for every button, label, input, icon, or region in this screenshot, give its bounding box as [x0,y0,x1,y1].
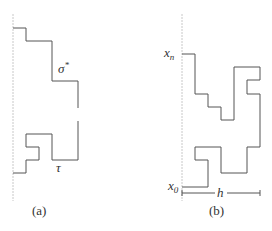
caption-a: (a) [32,203,46,218]
tau-label: τ [56,160,62,175]
start-point-label: x0 [167,178,179,195]
caption-b: (b) [209,203,224,218]
lattice-path [182,54,260,187]
path-tau [13,121,78,173]
panel-b: xn x0 h (b) [163,14,260,218]
width-label: h [217,185,224,200]
lattice-path-figure: σ* τ (a) xn x0 h (b) [0,0,272,231]
panel-a: σ* τ (a) [13,14,78,218]
end-point-label: xn [163,45,175,62]
sigma-star-label: σ* [58,60,69,76]
